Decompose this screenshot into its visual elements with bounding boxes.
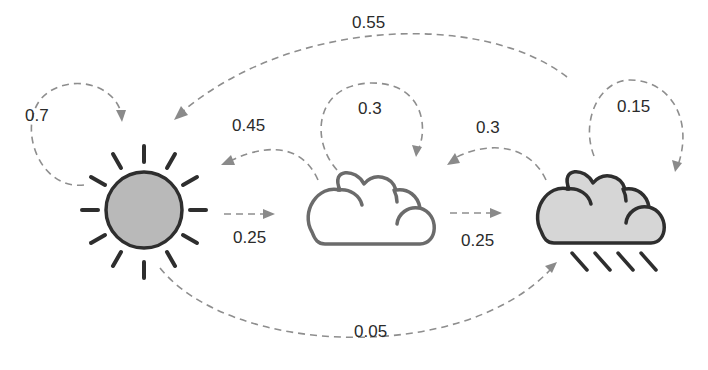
edge-cloudy-self [321, 83, 422, 170]
label-cloudy-self: 0.3 [358, 99, 382, 118]
label-sunny-to-rainy: 0.05 [354, 322, 387, 341]
edge-cloudy-to-sunny [221, 150, 318, 180]
sun-icon [82, 146, 206, 278]
arrowhead-icon [221, 155, 235, 165]
edge-cloudy-to-rainy [450, 208, 502, 218]
label-rainy-to-sunny: 0.55 [352, 13, 385, 32]
arrowhead-icon [116, 110, 126, 122]
label-sunny-self: 0.7 [25, 106, 49, 125]
cloud-icon [308, 173, 434, 244]
label-rainy-self: 0.15 [617, 97, 650, 116]
edge-sunny-to-cloudy [224, 209, 275, 219]
arrowhead-icon [490, 208, 502, 218]
label-rainy-to-cloudy: 0.3 [476, 118, 500, 137]
edge-sunny-self [31, 84, 126, 186]
arrowhead-icon [672, 160, 682, 172]
weather-markov-diagram: 0.55 0.7 0.45 0.3 0.3 0.15 0.25 0.25 0.0… [0, 0, 708, 370]
edge-rainy-to-cloudy [447, 148, 546, 180]
edge-rainy-self [589, 80, 682, 172]
label-sunny-to-cloudy: 0.25 [233, 228, 266, 247]
arrowhead-icon [545, 262, 557, 273]
rain-drops-icon [572, 253, 656, 270]
arrowhead-icon [412, 145, 422, 157]
label-cloudy-to-rainy: 0.25 [461, 231, 494, 250]
arrowhead-icon [447, 153, 460, 165]
label-cloudy-to-sunny: 0.45 [232, 116, 265, 135]
arrowhead-icon [263, 209, 275, 219]
rain-cloud-icon [538, 172, 665, 270]
arrowhead-icon [174, 106, 188, 120]
